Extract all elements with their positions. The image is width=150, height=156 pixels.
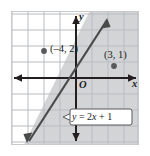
equation-label: y = 2x + 1 bbox=[72, 112, 112, 122]
equation-constant: + 1 bbox=[97, 111, 113, 122]
plot-point-a bbox=[41, 48, 47, 54]
y-axis-label: y bbox=[79, 12, 84, 23]
origin-label: O bbox=[79, 80, 87, 91]
equation-operator: = 2 bbox=[76, 111, 92, 122]
plot-point-b bbox=[111, 63, 117, 69]
x-axis-label: x bbox=[132, 79, 137, 90]
graph-canvas bbox=[0, 0, 150, 156]
point-label-b: (3, 1) bbox=[104, 50, 127, 61]
coordinate-graph-figure: (–4, 2) (3, 1) O x y y = 2x + 1 bbox=[0, 0, 150, 156]
point-label-a: (–4, 2) bbox=[50, 44, 78, 55]
